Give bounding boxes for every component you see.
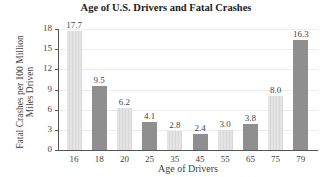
value-label: 16.3 (286, 29, 316, 39)
x-axis-label: Age of Drivers (58, 163, 318, 174)
gridline (58, 29, 318, 30)
y-tick-label: 9 (38, 84, 52, 94)
gridline (58, 49, 318, 50)
y-tick-label: 15 (38, 43, 52, 53)
y-tick-label: 6 (38, 104, 52, 114)
bar-35 (167, 131, 182, 150)
y-tick-label: 18 (38, 23, 52, 33)
gridline (58, 69, 318, 70)
y-tick-label: 0 (38, 144, 52, 154)
bar-75 (268, 96, 283, 150)
y-axis-line (58, 29, 59, 150)
bar-16 (67, 31, 82, 150)
value-label: 9.5 (84, 75, 114, 85)
bar-79 (293, 40, 308, 150)
bar-20 (117, 108, 132, 150)
x-axis-line (58, 150, 318, 151)
value-label: 8.0 (261, 85, 291, 95)
y-tick-label: 12 (38, 63, 52, 73)
bar-55 (218, 130, 233, 150)
y-tick-label: 3 (38, 124, 52, 134)
bar-65 (243, 124, 258, 150)
plot-area: 036912151817.7169.5186.2204.1252.8352.44… (0, 0, 332, 177)
bar-18 (92, 86, 107, 150)
bar-25 (142, 122, 157, 150)
bar-45 (193, 134, 208, 150)
value-label: 17.7 (59, 20, 89, 30)
value-label: 3.8 (235, 113, 265, 123)
value-label: 6.2 (109, 97, 139, 107)
